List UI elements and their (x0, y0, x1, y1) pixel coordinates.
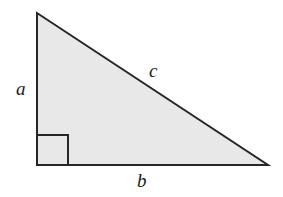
side-label-a: a (16, 79, 26, 98)
side-label-b: b (137, 171, 147, 190)
right-triangle-figure: a c b (0, 0, 283, 197)
triangle-canvas (0, 0, 283, 197)
side-label-c: c (149, 61, 157, 80)
triangle-shape (37, 13, 268, 165)
